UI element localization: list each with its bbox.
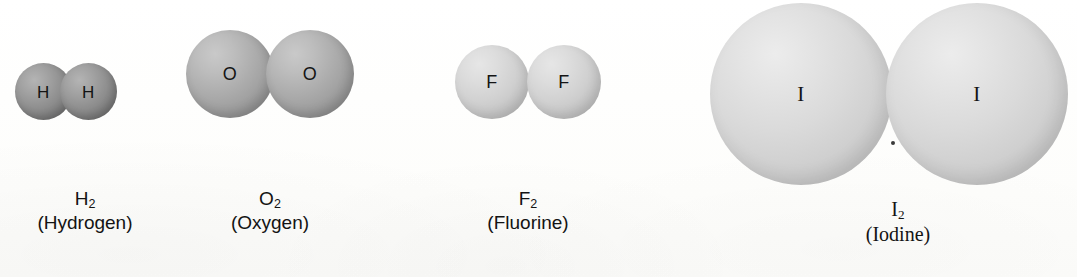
- formula-symbol-fluorine: F: [519, 188, 531, 209]
- ink-speck: [891, 141, 895, 145]
- atom-label-hydrogen-2: H: [60, 83, 117, 100]
- caption-iodine: I2 (Iodine): [808, 198, 988, 246]
- name-oxygen: (Oxygen): [190, 212, 350, 234]
- atom-group-iodine: I I: [710, 3, 1068, 185]
- atom-label-oxygen-1: O: [186, 65, 274, 83]
- caption-hydrogen: H2 (Hydrogen): [5, 188, 165, 235]
- caption-fluorine: F2 (Fluorine): [448, 188, 608, 235]
- formula-subscript-iodine: 2: [898, 207, 905, 222]
- atom-sphere-fluorine-1: F: [455, 45, 529, 119]
- atom-label-iodine-2: I: [886, 84, 1068, 105]
- atom-sphere-hydrogen-2: H: [60, 63, 117, 120]
- formula-subscript-fluorine: 2: [530, 197, 537, 211]
- formula-hydrogen: H2: [5, 188, 165, 210]
- name-hydrogen: (Hydrogen): [5, 212, 165, 234]
- atom-group-hydrogen: H H: [15, 63, 117, 120]
- atom-sphere-oxygen-1: O: [186, 30, 274, 118]
- atom-sphere-oxygen-2: O: [266, 30, 354, 118]
- formula-symbol-hydrogen: H: [75, 188, 89, 209]
- atom-label-oxygen-2: O: [266, 65, 354, 83]
- formula-iodine: I2: [808, 198, 988, 222]
- atom-group-fluorine: F F: [455, 45, 601, 119]
- atom-label-iodine-1: I: [710, 84, 892, 105]
- formula-subscript-hydrogen: 2: [88, 197, 95, 211]
- name-iodine: (Iodine): [808, 223, 988, 247]
- name-fluorine: (Fluorine): [448, 212, 608, 234]
- atom-sphere-iodine-1: I: [710, 3, 892, 185]
- atom-group-oxygen: O O: [186, 30, 354, 118]
- formula-oxygen: O2: [190, 188, 350, 210]
- formula-fluorine: F2: [448, 188, 608, 210]
- atom-sphere-fluorine-2: F: [527, 45, 601, 119]
- atom-label-fluorine-1: F: [455, 73, 529, 91]
- figure-canvas: H H H2 (Hydrogen) O O O2 (Oxygen): [0, 0, 1077, 277]
- formula-subscript-oxygen: 2: [274, 197, 281, 211]
- caption-oxygen: O2 (Oxygen): [190, 188, 350, 235]
- formula-symbol-oxygen: O: [259, 188, 274, 209]
- atom-sphere-iodine-2: I: [886, 3, 1068, 185]
- atom-label-fluorine-2: F: [527, 73, 601, 91]
